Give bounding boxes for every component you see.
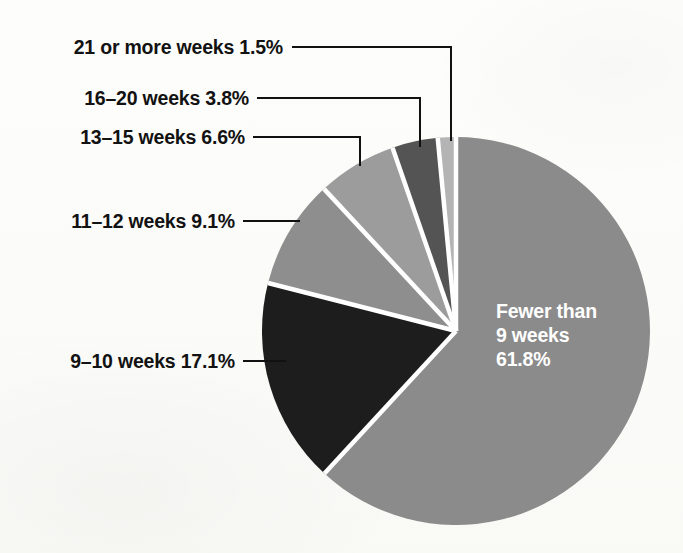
slice-label-13-15-weeks: 13–15 weeks 6.6% [80,127,245,148]
pie-chart-canvas [0,0,683,553]
leader-line-16-20-weeks [257,98,420,147]
slice-label-11-12-weeks: 11–12 weeks 9.1% [71,211,235,232]
slice-label-21-or-more-weeks: 21 or more weeks 1.5% [74,37,283,58]
slice-label-fewer-than-9-weeks-line2: 9 weeks [496,324,597,348]
leader-line-13-15-weeks [253,137,360,166]
slice-label-9-10-weeks: 9–10 weeks 17.1% [70,351,235,372]
slice-label-16-20-weeks: 16–20 weeks 3.8% [84,88,249,109]
slice-label-fewer-than-9-weeks-line3: 61.8% [496,348,597,372]
leader-line-21-or-more-weeks [292,47,451,141]
slice-label-fewer-than-9-weeks: Fewer than 9 weeks 61.8% [496,300,597,371]
slice-label-fewer-than-9-weeks-line1: Fewer than [496,300,597,324]
pie-chart-figure: 21 or more weeks 1.5% 16–20 weeks 3.8% 1… [0,0,683,553]
